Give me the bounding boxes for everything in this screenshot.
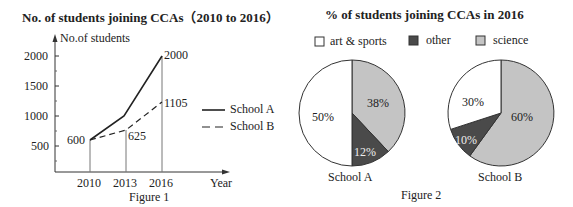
label-start: 600 [67,133,85,148]
legend-school-a: School A [230,102,274,117]
pie-b-science-label: 60% [511,110,533,125]
legend-science: science [493,33,528,48]
y-axis-label: No.of students [60,31,130,46]
label-b-2013: 625 [128,129,146,144]
x-tick-2010: 2010 [77,176,101,191]
x-tick-2013: 2013 [113,176,137,191]
y-tick-1000: 1000 [24,109,48,124]
legend-art: art & sports [330,34,387,49]
x-axis-arrow-icon [222,170,230,175]
fig2-caption: Figure 2 [401,188,441,203]
x-axis-label: Year [210,176,232,191]
pie-b-art-label: 30% [462,95,484,110]
legend-swatch-other [409,36,418,45]
pie-a-art-label: 50% [312,110,334,125]
y-tick-1500: 1500 [24,79,48,94]
pie-a-name: School A [328,170,372,185]
pie-a-science-label: 38% [367,96,389,111]
pie-b-other-label: 10% [455,133,477,148]
pie-a-other-label: 12% [354,145,376,160]
pie-b-name: School B [478,170,522,185]
series-school-a [90,56,162,140]
legend-school-b: School B [230,119,274,134]
legend-swatch-science [476,36,485,45]
label-a-2016: 2000 [164,48,188,63]
fig1-caption: Figure 1 [129,190,169,205]
label-b-2016: 1105 [164,96,188,111]
legend-swatch-art [315,37,324,46]
y-axis-arrow-icon [53,34,58,42]
x-tick-2016: 2016 [149,176,173,191]
y-tick-2000: 2000 [24,49,48,64]
y-tick-500: 500 [31,139,49,154]
fig1-title: No. of students joining CCAs（2010 to 201… [22,7,279,26]
legend-other: other [426,33,451,48]
fig2-title: % of students joining CCAs in 2016 [325,7,524,23]
pie-school-b [448,60,554,166]
